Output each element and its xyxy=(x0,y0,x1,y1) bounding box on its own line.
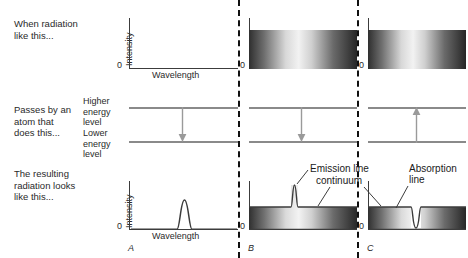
annotation-leader-lines xyxy=(0,0,468,258)
figure-canvas: When radiation like this... Passes by an… xyxy=(0,0,468,258)
